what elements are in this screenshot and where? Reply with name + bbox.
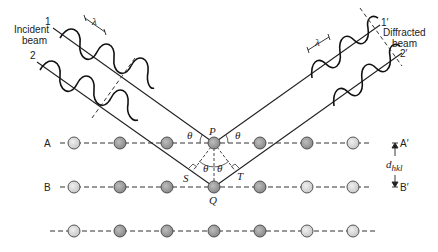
incident-beam-label-2: beam — [22, 35, 47, 46]
atom — [254, 137, 266, 149]
atom — [161, 181, 173, 193]
wavelength-label-diffracted: λ — [314, 36, 320, 48]
atom — [254, 181, 266, 193]
ray-2-in-label: 2 — [30, 50, 36, 61]
atom — [68, 225, 80, 237]
atom — [68, 181, 80, 193]
wavelength-label-incident: λ — [91, 15, 97, 27]
incident-waves — [40, 29, 154, 120]
atom — [347, 137, 359, 149]
construction-lines — [192, 143, 236, 187]
ray-1-in-label: 1 — [45, 16, 51, 27]
point-p-label: P — [208, 125, 216, 137]
atom — [301, 181, 313, 193]
atom — [254, 225, 266, 237]
atom — [68, 137, 80, 149]
point-s-label: S — [183, 172, 189, 184]
diffracted-beam-label-1: Diffracted — [383, 27, 426, 38]
atom-p — [208, 137, 220, 149]
ray-1-out-label: 1′ — [381, 17, 389, 28]
arc-theta-incident — [200, 135, 202, 143]
atom — [114, 181, 126, 193]
wave-2-incident — [40, 61, 138, 120]
atom — [347, 225, 359, 237]
plane-b-label: B — [44, 182, 51, 193]
theta-lower-left-label: θ — [203, 162, 209, 174]
ray-2-diffracted — [214, 53, 402, 187]
point-q-label: Q — [209, 194, 217, 206]
wave-1-diffracted — [312, 16, 378, 78]
theta-lower-right-label: θ — [217, 162, 223, 174]
atom — [161, 225, 173, 237]
incident-beam-label-1: Incident — [14, 24, 49, 35]
plane-b-prime-label: B′ — [400, 182, 409, 193]
ray-1-incident — [53, 28, 214, 143]
theta-incident-label: θ — [187, 129, 193, 141]
d-spacing-label: dhkl — [386, 158, 403, 173]
wave-2-diffracted — [334, 44, 400, 106]
ray-1-diffracted — [214, 25, 380, 143]
atom — [301, 137, 313, 149]
theta-diffracted-label: θ — [235, 129, 241, 141]
incident-wavefront — [92, 58, 135, 118]
point-t-label: T — [237, 170, 244, 182]
arc-theta-diffracted — [226, 135, 228, 143]
wave-1-incident — [60, 29, 154, 88]
incident-rays — [37, 28, 214, 187]
atom — [114, 225, 126, 237]
atom — [161, 137, 173, 149]
atom — [301, 225, 313, 237]
atom — [208, 225, 220, 237]
plane-a-prime-label: A′ — [400, 138, 409, 149]
atom — [114, 137, 126, 149]
bragg-diffraction-diagram: λ λ — [0, 0, 438, 252]
plane-a-label: A — [44, 138, 51, 149]
atom — [347, 181, 359, 193]
atom-q — [208, 181, 220, 193]
ray-2-out-label: 2′ — [400, 48, 408, 59]
